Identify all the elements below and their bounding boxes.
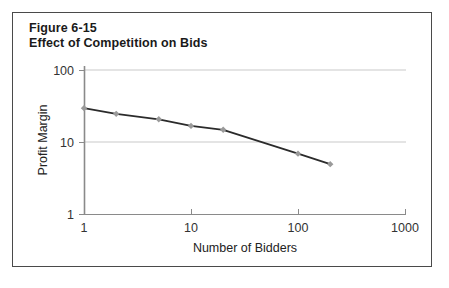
y-axis-title: Profit Margin [36,105,50,176]
y-tick-label-1: 1 [67,208,74,222]
y-tick-label-10: 10 [60,136,74,150]
x-tick-label-1000: 1000 [391,221,419,235]
figure-card: Figure 6-15 Effect of Competition on Bid… [12,12,432,267]
chart-plot-area: 100 10 1 1 10 100 1000 Number of Bidders… [13,13,433,268]
data-point-marker [327,161,333,167]
x-tick-label-1: 1 [81,221,88,235]
y-axis [79,66,85,215]
data-series-profit-margin [81,105,334,167]
line-chart: 100 10 1 1 10 100 1000 Number of Bidders… [13,13,433,268]
data-point-marker [295,150,301,156]
y-tick-label-100: 100 [53,64,74,78]
x-axis-title: Number of Bidders [193,241,297,255]
x-axis [84,209,406,215]
data-point-marker [188,123,194,129]
data-point-marker [81,105,87,111]
x-tick-label-10: 10 [184,221,198,235]
data-point-marker [156,116,162,122]
x-tick-label-100: 100 [288,221,309,235]
gridlines [84,70,406,142]
data-point-marker [220,127,226,133]
data-point-marker [113,111,119,117]
series-line [84,108,330,164]
